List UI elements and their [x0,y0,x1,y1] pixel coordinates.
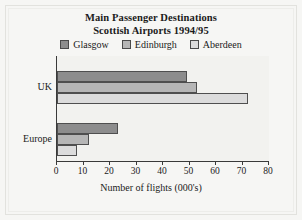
x-tick-label-80: 80 [263,166,273,176]
bar-edinburgh-europe [57,134,89,145]
legend-swatch-glasgow [60,40,69,49]
legend-swatch-aberdeen [190,40,199,49]
x-tick-label-30: 30 [131,166,141,176]
chart-subtitle: Scottish Airports 1994/95 [0,25,302,38]
x-tick-label-20: 20 [104,166,114,176]
bar-aberdeen-uk [57,93,248,104]
x-tick-label-60: 60 [210,166,220,176]
x-axis-title: Number of flights (000's) [0,182,302,193]
x-tick-80 [268,161,269,165]
x-tick-70 [242,161,243,165]
x-tick-label-0: 0 [54,166,59,176]
x-tick-label-50: 50 [184,166,194,176]
legend-item-aberdeen: Aberdeen [190,39,242,50]
x-tick-label-40: 40 [157,166,167,176]
x-tick-0 [56,161,57,165]
x-tick-30 [136,161,137,165]
chart-legend: Glasgow Edinburgh Aberdeen [0,39,302,50]
chart-title-block: Main Passenger Destinations Scottish Air… [0,12,302,37]
legend-label-edinburgh: Edinburgh [135,39,177,50]
y-axis-label-europe: Europe [2,133,52,144]
x-tick-label-70: 70 [237,166,247,176]
legend-swatch-edinburgh [122,40,131,49]
x-tick-60 [215,161,216,165]
bar-glasgow-europe [57,123,118,134]
y-axis-label-uk: UK [2,81,52,92]
chart-title: Main Passenger Destinations [0,12,302,25]
x-tick-40 [162,161,163,165]
bar-glasgow-uk [57,71,187,82]
x-tick-label-10: 10 [78,166,88,176]
x-tick-50 [189,161,190,165]
legend-item-glasgow: Glasgow [60,39,109,50]
legend-label-glasgow: Glasgow [73,39,109,50]
chart-card: Main Passenger Destinations Scottish Air… [0,0,302,220]
x-tick-10 [83,161,84,165]
bar-edinburgh-uk [57,82,197,93]
legend-item-edinburgh: Edinburgh [122,39,177,50]
x-tick-20 [109,161,110,165]
bar-aberdeen-europe [57,145,77,156]
plot-area [56,56,269,162]
legend-label-aberdeen: Aberdeen [203,39,242,50]
